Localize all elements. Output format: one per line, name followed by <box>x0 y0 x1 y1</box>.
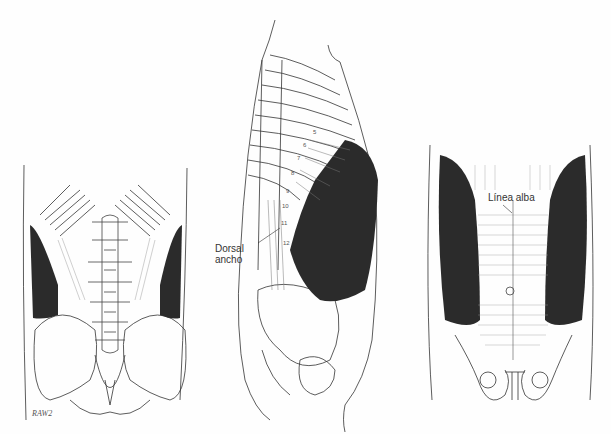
rib-number-12: 12 <box>283 240 290 246</box>
rib-number-9: 9 <box>286 188 289 194</box>
rib-number-10: 10 <box>282 203 289 209</box>
rib-number-5: 5 <box>313 129 316 135</box>
rib-number-7: 7 <box>297 155 300 161</box>
label-dorsal-line1: Dorsal <box>215 243 244 254</box>
rib-number-6: 6 <box>303 142 306 148</box>
label-linea-alba: Línea alba <box>488 192 535 203</box>
posterior-view-illustration <box>0 0 611 434</box>
artist-signature: RAW2 <box>32 409 52 418</box>
label-dorsal-line2: ancho <box>215 254 244 265</box>
rib-number-8: 8 <box>291 170 294 176</box>
label-dorsal-ancho: Dorsal ancho <box>215 243 244 265</box>
anatomy-figure: 5 6 7 8 9 10 11 12 Dorsal ancho Línea al… <box>0 0 611 434</box>
rib-number-11: 11 <box>281 220 287 226</box>
